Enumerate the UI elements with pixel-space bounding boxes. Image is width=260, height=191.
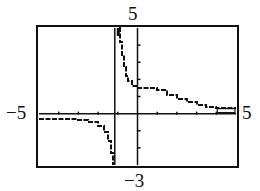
axes: [39, 28, 236, 165]
calculator-graph: [0, 0, 260, 191]
xmin-label: −5: [6, 103, 26, 122]
curve-right-branch: [119, 28, 236, 108]
ymin-label: −3: [124, 171, 144, 190]
ymax-label: 5: [128, 4, 138, 23]
curve-top-cap: [117, 28, 120, 36]
curve-left-branch: [39, 119, 113, 165]
xmax-label: 5: [242, 103, 252, 122]
curve-right-end: [217, 109, 235, 113]
